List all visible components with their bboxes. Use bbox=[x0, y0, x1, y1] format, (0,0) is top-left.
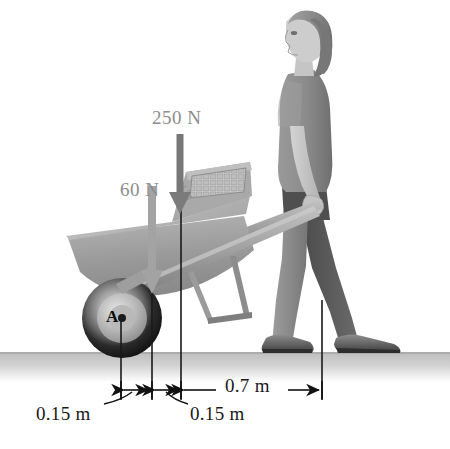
leader-left bbox=[104, 392, 132, 404]
dimension-label-left-0-15m: 0.15 m bbox=[36, 404, 91, 423]
leg-rear bbox=[230, 256, 250, 316]
leader-lines bbox=[104, 392, 188, 404]
person-figure bbox=[262, 11, 401, 353]
dimension-label-mid-0-15m: 0.15 m bbox=[190, 404, 245, 423]
force-label-60n: 60 N bbox=[120, 180, 159, 199]
axle-dot bbox=[118, 314, 126, 322]
physics-figure: 250 N 60 N A 0.7 m 0.15 m 0.15 m bbox=[0, 0, 450, 449]
force-label-250n: 250 N bbox=[152, 108, 201, 127]
point-label-a: A bbox=[106, 308, 118, 325]
leader-right bbox=[166, 392, 188, 404]
dimension-label-0-7m: 0.7 m bbox=[225, 376, 270, 395]
dimension-arrows bbox=[121, 381, 322, 399]
